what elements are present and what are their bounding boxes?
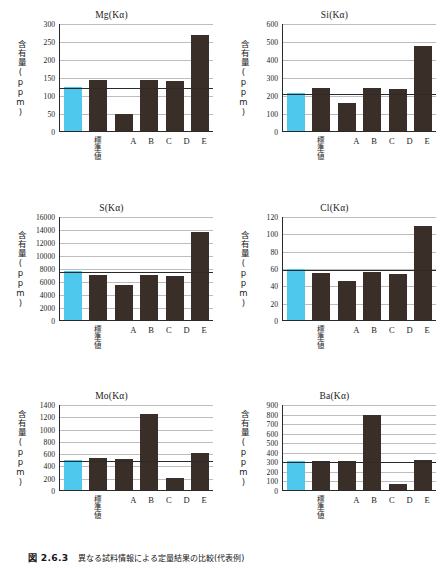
- bar-sample-E: [414, 460, 432, 490]
- plot-area: 含有量(ppm)0200400600800100012001400標準値ABCD…: [12, 405, 215, 525]
- y-tick-label: 80: [270, 247, 278, 256]
- y-tick-label: 40: [270, 282, 278, 291]
- y-tick-label: 10000: [36, 252, 55, 261]
- bar-series: [60, 24, 213, 131]
- bar-sample-C: [363, 272, 381, 320]
- plot-area: 含有量(ppm)0100200300400500600700800900標準値A…: [235, 405, 438, 525]
- bar-standard-value: [64, 460, 82, 490]
- x-label-D: D: [178, 133, 196, 146]
- x-label-D: D: [401, 492, 419, 505]
- plot-box: [282, 405, 436, 491]
- y-tick-label: 12000: [36, 239, 55, 248]
- x-label-standard-value: 標準値: [306, 492, 324, 519]
- x-label-E: E: [195, 492, 213, 505]
- bar-sample-D: [166, 478, 184, 490]
- x-label-A: A: [347, 492, 365, 505]
- y-tick-label: 6000: [40, 278, 55, 287]
- y-tick-label: 800: [267, 410, 278, 419]
- x-label-C: C: [160, 322, 178, 335]
- bar-sample-D: [389, 484, 407, 490]
- y-axis-ticks: 020406080100120: [250, 217, 280, 321]
- x-label-E: E: [418, 322, 436, 335]
- bar-sample-E: [414, 46, 432, 131]
- y-tick-label: 1000: [40, 425, 55, 434]
- plot-area: 含有量(ppm)020406080100120標準値ABCDE: [235, 217, 438, 355]
- y-tick-label: 500: [267, 439, 278, 448]
- plot-box: [59, 405, 213, 491]
- bar-series: [283, 217, 436, 320]
- y-tick-label: 2000: [40, 304, 55, 313]
- y-axis-ticks: 050100150200250300: [27, 24, 57, 132]
- y-tick-label: 400: [267, 448, 278, 457]
- chart-panel: Cl(Kα)含有量(ppm)020406080100120標準値ABCDE: [223, 193, 446, 381]
- bar-sample-B: [115, 114, 133, 131]
- y-tick-label: 100: [267, 477, 278, 486]
- y-tick-label: 50: [47, 110, 55, 119]
- chart-title: Ba(Kα): [223, 381, 446, 405]
- x-label-standard-value: 標準値: [83, 322, 101, 349]
- x-axis-labels: 標準値ABCDE: [282, 322, 436, 349]
- y-tick-label: 0: [51, 128, 55, 137]
- x-label-B: B: [142, 133, 160, 146]
- y-tick-label: 100: [44, 92, 55, 101]
- x-label-E: E: [418, 492, 436, 505]
- x-label-B: B: [142, 492, 160, 505]
- chart-title: Mg(Kα): [0, 0, 223, 24]
- x-axis-labels: 標準値ABCDE: [282, 133, 436, 160]
- plot-box: [59, 24, 213, 132]
- standard-value-line: [60, 272, 213, 273]
- x-axis-labels: 標準値ABCDE: [59, 492, 213, 519]
- y-tick-label: 600: [267, 429, 278, 438]
- y-tick-label: 0: [274, 317, 278, 326]
- standard-value-line: [60, 88, 213, 89]
- y-tick-label: 800: [44, 437, 55, 446]
- x-label-C: C: [383, 133, 401, 146]
- y-tick-label: 0: [274, 128, 278, 137]
- y-tick-label: 600: [267, 20, 278, 29]
- x-label-standard-value: 標準値: [306, 322, 324, 349]
- y-tick-label: 500: [267, 38, 278, 47]
- bar-sample-A: [312, 461, 330, 490]
- y-axis-title: 含有量(ppm): [14, 405, 27, 491]
- bar-sample-E: [191, 35, 209, 131]
- x-label-C: C: [383, 492, 401, 505]
- y-tick-label: 200: [267, 92, 278, 101]
- x-label-E: E: [195, 133, 213, 146]
- bar-sample-B: [115, 285, 133, 320]
- y-tick-label: 14000: [36, 226, 55, 235]
- x-label-A: A: [124, 492, 142, 505]
- y-tick-label: 100: [267, 230, 278, 239]
- plot-box: [59, 217, 213, 321]
- x-label-C: C: [383, 322, 401, 335]
- x-axis-labels: 標準値ABCDE: [59, 133, 213, 160]
- y-tick-label: 4000: [40, 291, 55, 300]
- x-label-standard-value: 標準値: [306, 133, 324, 160]
- bar-sample-D: [389, 274, 407, 320]
- x-label-A: A: [124, 133, 142, 146]
- bar-sample-B: [338, 281, 356, 320]
- y-tick-label: 200: [44, 474, 55, 483]
- y-tick-label: 600: [44, 450, 55, 459]
- chart-panel: S(Kα)含有量(ppm)020004000600080001000012000…: [0, 193, 223, 381]
- bar-sample-C: [140, 414, 158, 490]
- y-tick-label: 1200: [40, 413, 55, 422]
- y-tick-label: 200: [267, 467, 278, 476]
- y-tick-label: 300: [267, 458, 278, 467]
- y-axis-title: 含有量(ppm): [14, 24, 27, 132]
- bar-sample-D: [166, 276, 184, 320]
- plot-box: [282, 24, 436, 132]
- y-tick-label: 900: [267, 401, 278, 410]
- plot-area: 含有量(ppm)02000400060008000100001200014000…: [12, 217, 215, 355]
- x-label-A: A: [347, 133, 365, 146]
- x-label-D: D: [178, 322, 196, 335]
- y-tick-label: 60: [270, 265, 278, 274]
- y-axis-ticks: 0100200300400500600: [250, 24, 280, 132]
- chart-title: Mo(Kα): [0, 381, 223, 405]
- bar-standard-value: [287, 93, 305, 131]
- x-label-D: D: [401, 322, 419, 335]
- x-label-E: E: [195, 322, 213, 335]
- chart-title: Si(Kα): [223, 0, 446, 24]
- bar-sample-A: [89, 458, 107, 490]
- y-tick-label: 400: [44, 462, 55, 471]
- y-tick-label: 150: [44, 74, 55, 83]
